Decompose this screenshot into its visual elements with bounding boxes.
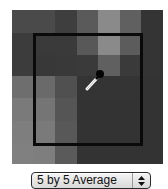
sample-pixel xyxy=(141,76,163,98)
sample-pixel xyxy=(141,10,163,33)
sample-pixel xyxy=(12,10,33,33)
sample-pixel xyxy=(77,10,98,33)
up-down-arrows-icon xyxy=(132,173,150,188)
sample-pixel xyxy=(120,10,141,33)
sample-pixel xyxy=(12,98,33,121)
sample-pixel xyxy=(55,143,77,164)
sample-pixel xyxy=(33,10,55,33)
sample-pixel xyxy=(141,121,163,143)
sample-pixel xyxy=(141,143,163,164)
sample-pixel xyxy=(141,33,163,55)
sample-pixel xyxy=(120,143,141,164)
sample-pixel xyxy=(12,33,33,55)
sample-pixel xyxy=(98,143,120,164)
sample-pixel xyxy=(12,76,33,98)
sample-pixel xyxy=(141,55,163,76)
sample-pixel xyxy=(12,143,33,164)
sample-pixel xyxy=(12,121,33,143)
sample-pixel xyxy=(33,143,55,164)
sample-pixel xyxy=(98,10,120,33)
sample-pixel xyxy=(77,143,98,164)
sample-pixel xyxy=(12,55,33,76)
eyedropper-icon xyxy=(84,68,106,92)
sample-size-popup[interactable]: 5 by 5 Average xyxy=(31,172,151,189)
sample-pixel xyxy=(55,10,77,33)
sample-pixel xyxy=(141,98,163,121)
color-sampler-panel: 5 by 5 Average xyxy=(0,0,168,189)
sample-size-selected-value: 5 by 5 Average xyxy=(32,173,132,188)
